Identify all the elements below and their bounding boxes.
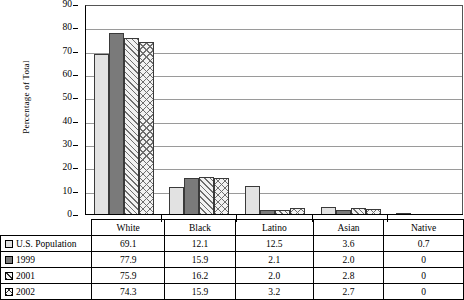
y-tick-label-50: 50 [63, 93, 73, 102]
legend-entry-1999: 1999 [1, 252, 92, 268]
bar-black-2001 [199, 177, 214, 215]
table-cell-black: 16.2 [165, 268, 235, 284]
y-tick-mark [73, 75, 78, 76]
table-cell-asian: 2.8 [313, 268, 383, 284]
bar-white-2002 [139, 42, 154, 215]
table-cell-black: 15.9 [165, 284, 235, 300]
legend-entry-2001: 2001 [1, 268, 92, 284]
table-row: 199977.915.92.12.00 [1, 252, 464, 268]
bar-black-2002 [214, 178, 229, 215]
table-body: U.S. Population69.112.112.53.60.7199977.… [1, 236, 464, 300]
table-cell-native: 0 [384, 252, 464, 268]
y-tick-label-0: 0 [67, 210, 72, 219]
y-tick-mark [73, 98, 78, 99]
y-tick-label-30: 30 [63, 140, 73, 149]
table-column-header-black: Black [165, 220, 235, 236]
gridline [86, 29, 462, 30]
table-cell-latino: 3.2 [235, 284, 313, 300]
table-cell-asian: 3.6 [313, 236, 383, 252]
y-tick-mark [73, 52, 78, 53]
y-tick-mark [73, 5, 78, 6]
y-tick-label-20: 20 [63, 163, 73, 172]
table-cell-native: 0 [384, 268, 464, 284]
bar-white-2001 [124, 38, 139, 215]
y-tick-label-80: 80 [63, 23, 73, 32]
bar-chart: Percentage of Total 9080706050403020100 [0, 0, 464, 220]
table-row: 200274.315.93.22.70 [1, 284, 464, 300]
y-tick-mark [73, 215, 78, 216]
table-cell-white: 77.9 [92, 252, 165, 268]
x-axis-line [85, 214, 463, 215]
table-cell-asian: 2.0 [313, 252, 383, 268]
y-tick-mark [73, 28, 78, 29]
table-cell-native: 0 [384, 284, 464, 300]
legend-swatch-icon [5, 256, 13, 264]
y-tick-label-40: 40 [63, 117, 73, 126]
table-column-header-latino: Latino [235, 220, 313, 236]
table-cell-white: 69.1 [92, 236, 165, 252]
bar-white-u-s-population [94, 54, 109, 215]
legend-swatch-icon [5, 272, 13, 280]
y-tick-label-90: 90 [63, 0, 73, 9]
y-tick-label-60: 60 [63, 70, 73, 79]
table-cell-latino: 2.0 [235, 268, 313, 284]
table-row: U.S. Population69.112.112.53.60.7 [1, 236, 464, 252]
y-tick-label-70: 70 [63, 47, 73, 56]
legend-entry-2002: 2002 [1, 284, 92, 300]
data-table: WhiteBlackLatinoAsianNative U.S. Populat… [0, 219, 464, 300]
y-tick-mark [73, 122, 78, 123]
bar-black-u-s-population [169, 187, 184, 215]
bar-black-1999 [184, 178, 199, 215]
table-column-header-native: Native [384, 220, 464, 236]
table-cell-latino: 12.5 [235, 236, 313, 252]
table-cell-white: 74.3 [92, 284, 165, 300]
table-column-header-white: White [92, 220, 165, 236]
y-tick-label-10: 10 [63, 187, 73, 196]
y-axis-title: Percentage of Total [21, 42, 31, 152]
legend-label: 1999 [16, 255, 35, 265]
table-row: 200175.916.22.02.80 [1, 268, 464, 284]
table-column-header-asian: Asian [313, 220, 383, 236]
legend-label: 2002 [16, 287, 35, 297]
table-corner-cell [1, 220, 92, 236]
table-header-row: WhiteBlackLatinoAsianNative [1, 220, 464, 236]
y-tick-mark [73, 145, 78, 146]
bar-latino-u-s-population [245, 186, 260, 215]
legend-entry-u-s-population: U.S. Population [1, 236, 92, 252]
plot-area [85, 5, 463, 215]
legend-label: 2001 [16, 271, 35, 281]
bar-white-1999 [109, 33, 124, 215]
table-cell-white: 75.9 [92, 268, 165, 284]
table-cell-latino: 2.1 [235, 252, 313, 268]
legend-label: U.S. Population [16, 239, 76, 249]
legend-swatch-icon [5, 288, 13, 296]
y-tick-mark [73, 192, 78, 193]
y-axis-tick-labels: 9080706050403020100 [52, 0, 78, 220]
y-tick-mark [73, 168, 78, 169]
table-cell-black: 12.1 [165, 236, 235, 252]
table-cell-black: 15.9 [165, 252, 235, 268]
legend-swatch-icon [5, 240, 13, 248]
table-cell-native: 0.7 [384, 236, 464, 252]
table-cell-asian: 2.7 [313, 284, 383, 300]
